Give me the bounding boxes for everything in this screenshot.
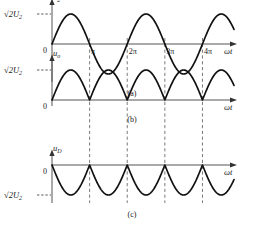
waveform-curve bbox=[52, 165, 234, 195]
waveform-figure: u2√2U20ωtπ2π3π4π(a)uo√2U20ωt(b)uD√2U20ωt… bbox=[0, 0, 259, 226]
waveform-curve bbox=[52, 70, 234, 100]
panel-caption: (b) bbox=[127, 115, 137, 124]
y-axis-label: u2 bbox=[53, 0, 60, 3]
y-axis-label: uD bbox=[53, 143, 62, 154]
x-tick-label-2: 2π bbox=[129, 47, 137, 56]
x-axis-label: ωt bbox=[224, 102, 233, 112]
x-tick-label-1: π bbox=[91, 47, 95, 56]
x-tick-label-4: 4π bbox=[204, 47, 212, 56]
amplitude-label: √2U2 bbox=[4, 9, 22, 20]
amplitude-label: √2U2 bbox=[4, 65, 22, 76]
zero-label: 0 bbox=[43, 46, 47, 55]
zero-label: 0 bbox=[43, 167, 47, 176]
y-axis-label: uo bbox=[53, 48, 60, 59]
x-tick-label-3: 3π bbox=[166, 47, 174, 56]
amplitude-label: √2U2 bbox=[4, 190, 22, 201]
waveform-svg: u2√2U20ωtπ2π3π4π(a)uo√2U20ωt(b)uD√2U20ωt… bbox=[0, 0, 259, 226]
panel-caption: (c) bbox=[128, 210, 137, 219]
x-axis-label: ωt bbox=[224, 167, 233, 177]
zero-label: 0 bbox=[43, 102, 47, 111]
x-axis-label: ωt bbox=[224, 46, 233, 56]
